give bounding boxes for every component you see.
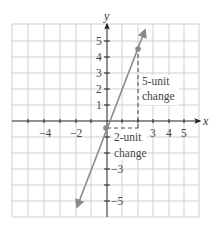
y-axis-label: y — [103, 9, 110, 23]
run-annotation-line2: change — [114, 147, 147, 160]
x-tick-label: 5 — [181, 127, 187, 139]
y-tick-label: −5 — [111, 195, 123, 207]
y-tick-label: −3 — [111, 163, 123, 175]
rise-annotation-line1: 5-unit — [142, 75, 170, 87]
x-tick-label: 4 — [166, 127, 172, 139]
axes — [12, 24, 200, 217]
x-tick-label: 3 — [150, 127, 156, 139]
point-2-4.5 — [135, 46, 141, 52]
y-tick-label: 3 — [96, 67, 102, 79]
y-tick-label: 5 — [96, 35, 102, 47]
y-tick-label: 2 — [96, 83, 102, 95]
x-tick-label: −2 — [70, 127, 82, 139]
point-y-intercept — [103, 125, 109, 131]
x-tick-label: −4 — [39, 127, 51, 139]
rise-annotation-line2: change — [142, 90, 175, 103]
x-axis-label: x — [202, 114, 209, 128]
run-annotation-line1: 2-unit — [114, 131, 142, 143]
coordinate-plane: y x −4 −2 3 4 5 5 4 3 2 1 −3 −5 5-unit c… — [0, 0, 218, 227]
y-tick-label: 1 — [96, 99, 102, 111]
y-tick-label: 4 — [96, 51, 102, 63]
